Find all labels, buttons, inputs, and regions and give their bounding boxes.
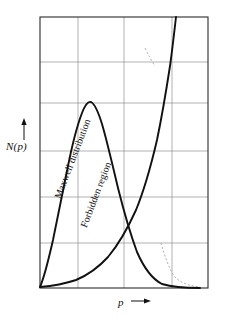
y-axis-arrow xyxy=(21,118,26,140)
x-axis-label: p xyxy=(118,296,124,308)
y-axis-label: N(p) xyxy=(6,140,27,152)
x-axis-arrow xyxy=(131,299,151,304)
maxwell-distribution-figure xyxy=(0,0,225,320)
